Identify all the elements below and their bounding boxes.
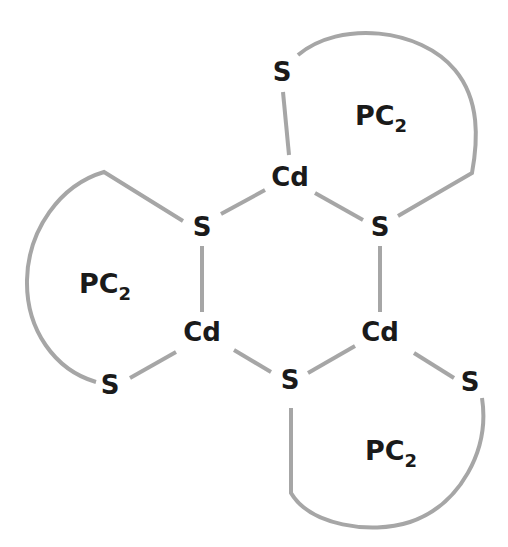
atom-cd-left: Cd xyxy=(183,317,221,347)
bond-stop-cdtop xyxy=(283,92,289,155)
ligand-labels: PC2 PC2 PC2 xyxy=(79,100,417,471)
atom-cd-right: Cd xyxy=(361,317,399,347)
bond-cdright-sbottom xyxy=(308,346,355,373)
atom-cd-top: Cd xyxy=(271,162,309,192)
atom-s-ring-left: S xyxy=(193,212,212,242)
bond-cdtop-sleft xyxy=(221,190,265,214)
bond-cdright-sbr xyxy=(414,353,454,378)
bond-cdleft-sbl xyxy=(130,352,176,378)
bond-cdtop-sright xyxy=(315,193,363,220)
pc2-top-label: PC2 xyxy=(355,100,407,136)
atom-s-bottom-left: S xyxy=(101,370,120,400)
atom-labels: Cd Cd Cd S S S S S S xyxy=(101,57,480,400)
cd-s-cluster-diagram: Cd Cd Cd S S S S S S PC2 PC2 PC2 xyxy=(0,0,508,547)
pc2-bottom-label: PC2 xyxy=(365,435,417,471)
bond-cdleft-sbottom xyxy=(234,350,271,372)
pc2-left-label: PC2 xyxy=(79,268,131,304)
atom-s-ring-right: S xyxy=(371,212,390,242)
atom-s-top: S xyxy=(273,57,292,87)
atom-s-ring-bottom: S xyxy=(281,365,300,395)
atom-s-bottom-right: S xyxy=(461,367,480,397)
